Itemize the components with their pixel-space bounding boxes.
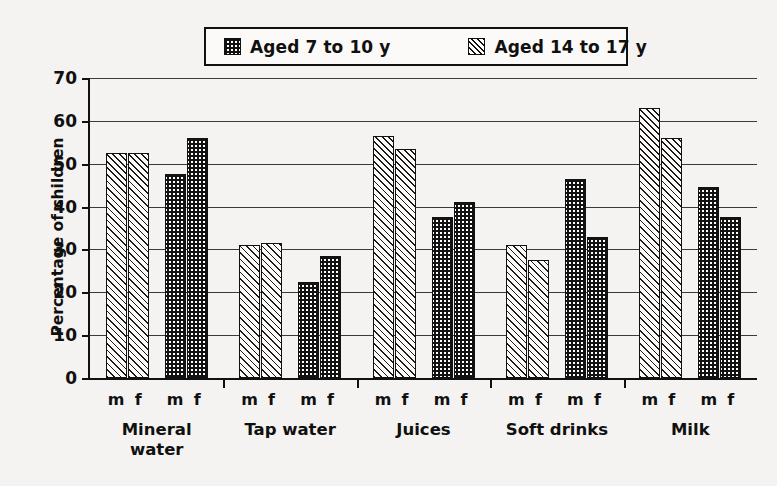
bar-juices-aged-7-10-female	[454, 202, 475, 378]
plot-area: 010203040506070 mfmfMineral watermfmfTap…	[88, 78, 757, 380]
bar-tap-water-aged-7-10-male	[298, 282, 319, 378]
x-subgroup-label-soft-drinks-2: m	[567, 390, 584, 409]
y-tick-mark-50	[82, 164, 90, 166]
y-tick-mark-0	[82, 378, 90, 380]
x-subgroup-label-mineral-water-3: f	[194, 390, 201, 409]
bar-soft-drinks-aged-14-17-male	[506, 245, 527, 378]
y-tick-mark-30	[82, 249, 90, 251]
y-tick-label-60: 60	[53, 111, 77, 131]
x-category-label-juices: Juices	[364, 420, 484, 440]
y-tick-mark-60	[82, 121, 90, 123]
y-tick-label-50: 50	[53, 154, 77, 174]
x-subgroup-label-milk-3: f	[727, 390, 734, 409]
x-axis-separator-4	[624, 378, 626, 388]
x-category-label-tap-water: Tap water	[230, 420, 350, 440]
x-category-label-mineral-water: Mineral water	[97, 420, 217, 460]
bar-milk-aged-14-17-male	[639, 108, 660, 378]
bar-mineral-water-aged-7-10-female	[187, 138, 208, 378]
legend-item-aged-14-to-17: Aged 14 to 17 y	[468, 29, 646, 64]
x-axis-separator-3	[490, 378, 492, 388]
x-subgroup-label-juices-1: f	[402, 390, 409, 409]
gridline-70	[90, 78, 757, 79]
y-tick-mark-20	[82, 292, 90, 294]
bar-tap-water-aged-14-17-male	[239, 245, 260, 378]
y-tick-label-10: 10	[53, 325, 77, 345]
legend-item-aged-7-to-10: Aged 7 to 10 y	[224, 29, 390, 64]
legend-swatch-hatch-icon	[468, 38, 485, 55]
x-subgroup-label-tap-water-1: f	[268, 390, 275, 409]
bar-juices-aged-7-10-male	[432, 217, 453, 378]
y-tick-label-70: 70	[53, 68, 77, 88]
x-category-label-soft-drinks: Soft drinks	[497, 420, 617, 440]
x-subgroup-label-juices-3: f	[461, 390, 468, 409]
x-subgroup-label-mineral-water-2: m	[167, 390, 184, 409]
x-subgroup-label-soft-drinks-0: m	[508, 390, 525, 409]
bar-milk-aged-7-10-male	[698, 187, 719, 378]
bar-mineral-water-aged-14-17-male	[106, 153, 127, 378]
bar-juices-aged-14-17-male	[373, 136, 394, 378]
x-subgroup-label-soft-drinks-1: f	[535, 390, 542, 409]
x-subgroup-label-juices-2: m	[434, 390, 451, 409]
x-axis-separator-2	[357, 378, 359, 388]
x-subgroup-label-milk-0: m	[641, 390, 658, 409]
bar-milk-aged-14-17-female	[661, 138, 682, 378]
chart-page: Aged 7 to 10 y Aged 14 to 17 y Percentag…	[0, 0, 777, 486]
x-category-label-milk: Milk	[630, 420, 750, 440]
x-subgroup-label-juices-0: m	[375, 390, 392, 409]
x-subgroup-label-milk-2: m	[700, 390, 717, 409]
x-subgroup-label-mineral-water-1: f	[135, 390, 142, 409]
legend-label-aged-14-to-17: Aged 14 to 17 y	[494, 37, 646, 57]
bar-soft-drinks-aged-7-10-male	[565, 179, 586, 378]
x-subgroup-label-soft-drinks-3: f	[594, 390, 601, 409]
y-tick-label-0: 0	[65, 368, 77, 388]
bar-mineral-water-aged-7-10-male	[165, 174, 186, 378]
x-axis-separator-1	[223, 378, 225, 388]
bar-mineral-water-aged-14-17-female	[128, 153, 149, 378]
x-subgroup-label-tap-water-0: m	[241, 390, 258, 409]
x-subgroup-label-tap-water-3: f	[327, 390, 334, 409]
bar-milk-aged-7-10-female	[720, 217, 741, 378]
bar-juices-aged-14-17-female	[395, 149, 416, 378]
legend-swatch-dotted-icon	[224, 38, 241, 55]
bar-tap-water-aged-7-10-female	[320, 256, 341, 378]
legend-label-aged-7-to-10: Aged 7 to 10 y	[250, 37, 390, 57]
x-subgroup-label-mineral-water-0: m	[108, 390, 125, 409]
y-tick-mark-10	[82, 335, 90, 337]
bar-tap-water-aged-14-17-female	[261, 243, 282, 378]
bar-soft-drinks-aged-14-17-female	[528, 260, 549, 378]
chart-legend: Aged 7 to 10 y Aged 14 to 17 y	[204, 27, 628, 66]
x-subgroup-label-milk-1: f	[668, 390, 675, 409]
bar-soft-drinks-aged-7-10-female	[587, 237, 608, 378]
x-subgroup-label-tap-water-2: m	[300, 390, 317, 409]
y-tick-label-40: 40	[53, 197, 77, 217]
y-tick-label-30: 30	[53, 239, 77, 259]
y-tick-mark-40	[82, 207, 90, 209]
y-tick-mark-70	[82, 78, 90, 80]
y-tick-label-20: 20	[53, 282, 77, 302]
